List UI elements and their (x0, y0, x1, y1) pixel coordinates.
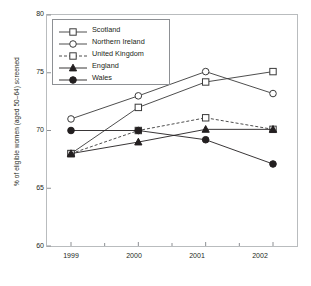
legend: Scotland Northern Ireland United Kingdom… (52, 19, 170, 85)
legend-key-open-square-solid-icon (58, 24, 88, 36)
data-point (68, 127, 75, 134)
data-point (135, 127, 142, 134)
legend-label: Scotland (88, 24, 120, 36)
legend-item-england[interactable]: England (58, 60, 165, 72)
legend-item-united-kingdom[interactable]: United Kingdom (58, 48, 165, 60)
series-wales (68, 127, 277, 167)
data-point (202, 115, 208, 121)
legend-label: England (88, 60, 119, 72)
legend-label: United Kingdom (88, 48, 144, 60)
data-point (202, 79, 208, 85)
legend-key-marker (70, 41, 77, 48)
data-point (202, 136, 209, 143)
data-point (135, 93, 142, 100)
data-point (68, 116, 75, 123)
legend-key-marker (70, 53, 76, 59)
legend-key-marker (70, 77, 77, 84)
legend-item-scotland[interactable]: Scotland (58, 24, 165, 36)
data-point (270, 90, 277, 97)
legend-key-filled-triangle-solid-icon (58, 60, 88, 72)
series-line (71, 131, 273, 164)
data-point (270, 161, 277, 168)
legend-key-marker (70, 29, 76, 35)
legend-label: Northern Ireland (88, 36, 145, 48)
legend-item-northern-ireland[interactable]: Northern Ireland (58, 36, 165, 48)
legend-key-open-square-dashed-icon (58, 48, 88, 60)
data-point (202, 126, 209, 133)
legend-key-open-circle-solid-icon (58, 36, 88, 48)
data-point (270, 68, 276, 74)
legend-item-wales[interactable]: Wales (58, 72, 165, 84)
legend-label: Wales (88, 72, 112, 84)
data-point (202, 68, 209, 75)
legend-key-icon (58, 74, 88, 86)
legend-key-filled-circle-solid-icon (58, 72, 88, 84)
data-point (135, 104, 141, 110)
line-chart: % of eligible women (aged 50–64) screene… (0, 0, 311, 286)
